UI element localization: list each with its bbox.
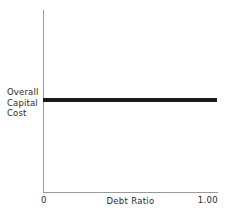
series-overall-capital-cost	[43, 98, 217, 102]
y-axis-label-line-2: Capital	[7, 98, 43, 109]
x-axis-tick-max: 1.00	[190, 195, 218, 205]
y-axis-label-line-3: Cost	[7, 108, 43, 119]
y-axis-label: Overall Capital Cost	[7, 87, 43, 119]
chart-figure: Overall Capital Cost 0 Debt Ratio 1.00	[0, 0, 243, 217]
x-axis-line	[43, 192, 218, 193]
y-axis-label-line-1: Overall	[7, 87, 43, 98]
